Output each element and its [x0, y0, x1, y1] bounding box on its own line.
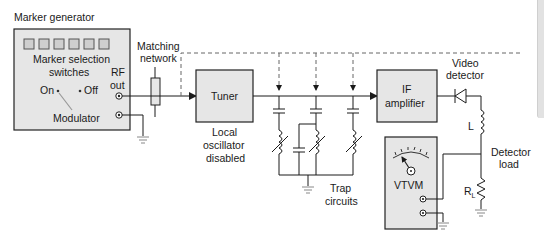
off-label: Off	[84, 84, 98, 96]
trap-circuits-label-1: Trap	[330, 182, 351, 194]
if-amplifier-box	[377, 70, 437, 122]
trap-circuits	[272, 96, 362, 186]
tuner-label: Tuner	[211, 90, 239, 102]
ground-icon	[137, 137, 149, 143]
diode-icon	[455, 89, 466, 103]
off-dot	[79, 90, 82, 93]
ground-icon	[475, 210, 487, 216]
switches-label-1: Marker selection	[33, 53, 110, 65]
rf-out-label-2: out	[110, 79, 125, 91]
matching-network-resistor	[151, 78, 160, 105]
if-amplifier-label-2: amplifier	[385, 97, 425, 109]
ground-icon	[437, 223, 449, 229]
rf-out-label-1: RF	[111, 66, 125, 78]
on-label: On	[40, 84, 54, 96]
ground-icon	[302, 187, 314, 193]
detector-load-label-2: load	[499, 158, 519, 170]
trap-circuits-label-2: circuits	[325, 195, 358, 207]
vtvm-label: VTVM	[394, 179, 423, 191]
switches-label-2: switches	[49, 66, 89, 78]
resistor-label: RL	[464, 185, 476, 199]
modulator-label: Modulator	[53, 112, 100, 124]
load-resistor-rl	[477, 175, 485, 209]
video-detector-label-1: Video	[452, 57, 479, 69]
detector-load-label-1: Detector	[491, 146, 531, 158]
tuner-note-2: oscillator	[203, 139, 245, 151]
on-dot	[57, 90, 60, 93]
video-detector-label-2: detector	[446, 69, 484, 81]
tuner-note-3: disabled	[206, 152, 245, 164]
marker-generator-title: Marker generator	[14, 11, 95, 23]
matching-network-label-2: network	[140, 52, 178, 64]
inductor-label: L	[468, 120, 474, 132]
matching-network-label-1: Matching	[137, 40, 180, 52]
inductor-l	[481, 110, 484, 134]
if-amplifier-label-1: IF	[402, 83, 411, 95]
tuner-note-1: Local	[212, 126, 237, 138]
